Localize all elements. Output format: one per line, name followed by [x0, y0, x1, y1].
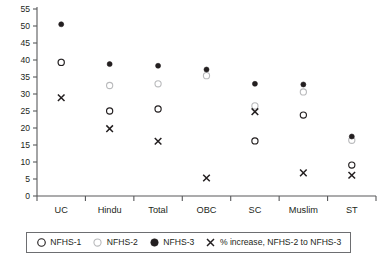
x-tick-label: SC [249, 205, 262, 215]
x-tick-label: Hindu [98, 205, 122, 215]
point-percent-increase [348, 172, 355, 179]
legend-label-nfhs-2: NFHS-2 [107, 238, 138, 247]
x-cross-icon [205, 237, 216, 248]
y-tick-label: 50 [20, 21, 30, 31]
chart-figure: 0510152025303540455055UCHinduTotalOBCSCM… [0, 0, 384, 268]
open-circle-light-icon [92, 237, 103, 248]
point-nfhs-3 [59, 22, 64, 27]
y-tick-label: 5 [25, 174, 30, 184]
plot-area: 0510152025303540455055UCHinduTotalOBCSCM… [0, 0, 384, 225]
point-nfhs-1 [58, 59, 64, 65]
point-nfhs-1 [155, 106, 161, 112]
point-nfhs-2 [300, 89, 306, 95]
point-nfhs-3 [349, 134, 354, 139]
point-percent-increase [300, 170, 307, 177]
y-tick-label: 15 [20, 140, 30, 150]
open-circle-dark-icon [36, 237, 47, 248]
legend-item-nfhs-2: NFHS-2 [92, 237, 138, 248]
y-tick-label: 35 [20, 72, 30, 82]
scatter-plot-svg: 0510152025303540455055UCHinduTotalOBCSCM… [0, 0, 384, 225]
point-nfhs-3 [301, 82, 306, 87]
point-percent-increase [58, 94, 65, 101]
legend-item-percent-increase: % increase, NFHS-2 to NFHS-3 [205, 237, 341, 248]
y-tick-label: 10 [20, 157, 30, 167]
point-percent-increase [203, 175, 210, 182]
y-tick-label: 55 [20, 4, 30, 14]
legend-label-nfhs-1: NFHS-1 [50, 238, 81, 247]
point-nfhs-1 [300, 112, 306, 118]
point-nfhs-2 [252, 103, 258, 109]
legend-label-nfhs-3: NFHS-3 [163, 238, 194, 247]
y-tick-label: 40 [20, 55, 30, 65]
y-tick-label: 25 [20, 106, 30, 116]
filled-circle-icon [149, 237, 160, 248]
x-tick-label: Total [148, 205, 167, 215]
point-nfhs-2 [203, 73, 209, 79]
x-tick-label: Muslim [289, 205, 318, 215]
point-nfhs-2 [107, 82, 113, 88]
point-nfhs-3 [252, 81, 257, 86]
point-percent-increase [155, 138, 162, 145]
y-tick-label: 30 [20, 89, 30, 99]
legend-item-nfhs-3: NFHS-3 [149, 237, 195, 248]
y-tick-label: 0 [25, 191, 30, 201]
point-nfhs-3 [204, 67, 209, 72]
point-nfhs-3 [156, 63, 161, 68]
point-nfhs-2 [155, 81, 161, 87]
chart-legend: NFHS-1 NFHS-2 NFHS-3 % increase, NFHS-2 … [26, 232, 351, 253]
y-tick-label: 20 [20, 123, 30, 133]
point-nfhs-1 [107, 108, 113, 114]
legend-item-list: NFHS-1 NFHS-2 NFHS-3 % increase, NFHS-2 … [36, 237, 341, 248]
x-tick-label: ST [346, 205, 358, 215]
point-percent-increase [106, 125, 113, 132]
y-tick-label: 45 [20, 38, 30, 48]
x-tick-label: OBC [197, 205, 217, 215]
legend-label-percent-increase: % increase, NFHS-2 to NFHS-3 [220, 238, 341, 247]
legend-item-nfhs-1: NFHS-1 [36, 237, 82, 248]
point-nfhs-1 [252, 138, 258, 144]
point-nfhs-1 [349, 162, 355, 168]
point-nfhs-3 [107, 62, 112, 67]
x-tick-label: UC [55, 205, 69, 215]
